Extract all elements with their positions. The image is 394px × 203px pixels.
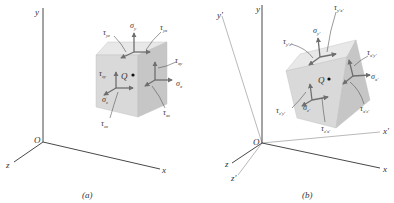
zprime-axis [238,143,262,175]
label-tau-ypxp: τy'x' [334,3,344,13]
point-q-dot [327,77,330,80]
stress-cube-b [286,40,370,128]
stress-element-diagram: y x z O [0,0,394,203]
cube-front-face [96,55,138,117]
z-axis-label: z [5,160,10,170]
y-axis-label: y [255,4,260,14]
label-tau-xy: τxy [175,56,183,66]
y-axis-label: y [34,7,39,17]
yprime-axis-label: y' [216,10,224,20]
label-tau-ypzp: τy'z' [283,37,293,47]
panel-a: y x z O [5,7,183,200]
label-tau-zpyp: τz'y' [276,106,286,116]
point-q-label: Q [318,75,325,85]
x-axis [43,142,160,169]
x-axis-label: x [382,164,387,174]
zprime-axis-label: z' [230,173,238,183]
label-sigma-yp: σy' [313,26,321,36]
xprime-axis-label: x' [382,126,390,136]
xprime-axis [262,132,380,143]
label-tau-xz: τxz [163,108,170,118]
x-axis-label: x [161,165,166,175]
origin-label: O [34,135,41,145]
label-sigma-y: σy [130,21,137,31]
label-tau-xpzp: τx'z' [360,104,370,114]
label-tau-yz: τyz [103,28,110,38]
label-sigma-xp: σx' [371,72,379,82]
label-tau-zx: τzx [101,119,109,129]
x-axis [262,143,380,168]
caption-b: (b) [302,190,313,200]
label-sigma-x: σx [176,79,183,89]
label-tau-xpyp: τx'y' [367,48,377,58]
yprime-axis [222,16,262,143]
caption-a: (a) [82,190,93,200]
z-axis-label: z [224,159,229,169]
origin-label: O [253,137,260,147]
label-tau-yx: τyx [160,23,168,33]
panel-b: y y' x' x z z' O [216,3,390,200]
point-q-dot [131,73,134,76]
z-axis [14,142,43,162]
point-q-label: Q [121,71,128,81]
